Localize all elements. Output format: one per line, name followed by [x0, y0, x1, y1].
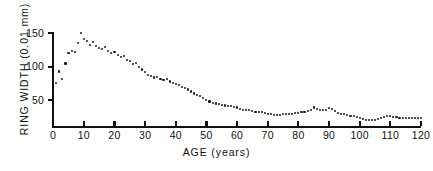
data-point: [242, 109, 244, 111]
data-point: [104, 46, 106, 48]
data-point: [77, 42, 79, 44]
data-point: [334, 110, 336, 112]
data-point: [190, 90, 192, 92]
data-point: [325, 109, 327, 111]
data-point: [389, 115, 391, 117]
data-point: [181, 86, 183, 88]
data-point: [153, 76, 155, 78]
data-point: [129, 60, 131, 62]
data-point: [169, 80, 171, 82]
data-point: [236, 106, 238, 108]
data-point: [411, 117, 413, 119]
data-point: [120, 56, 122, 58]
data-point: [322, 109, 324, 111]
data-point: [310, 109, 312, 111]
data-point: [64, 62, 66, 64]
data-point: [377, 118, 379, 120]
data-point: [245, 109, 247, 111]
data-point: [187, 88, 189, 90]
data-point: [135, 62, 137, 64]
data-point: [398, 117, 400, 119]
data-point: [402, 117, 404, 119]
data-point: [353, 115, 355, 117]
data-point: [264, 112, 266, 114]
data-point: [110, 52, 112, 54]
data-point: [405, 117, 407, 119]
data-point: [251, 110, 253, 112]
data-point: [273, 114, 275, 116]
data-point: [199, 95, 201, 97]
data-point: [162, 79, 164, 81]
data-point: [267, 113, 269, 115]
data-point: [221, 104, 223, 106]
data-point: [294, 112, 296, 114]
data-point: [261, 111, 263, 113]
data-point: [175, 83, 177, 85]
data-point: [258, 111, 260, 113]
data-point: [89, 44, 91, 46]
data-point: [67, 52, 69, 54]
data-point: [178, 84, 180, 86]
data-point: [132, 63, 134, 65]
data-point: [202, 97, 204, 99]
data-point: [365, 119, 367, 121]
data-point: [371, 119, 373, 121]
data-point: [193, 92, 195, 94]
data-point: [356, 116, 358, 118]
data-point: [98, 47, 100, 49]
data-point: [196, 94, 198, 96]
data-point: [303, 111, 305, 113]
y-axis-title: RING WIDTH (0.01 mm): [18, 0, 30, 139]
data-point: [205, 99, 207, 101]
data-point: [55, 82, 57, 84]
data-point: [61, 78, 63, 80]
data-point: [285, 113, 287, 115]
data-point: [184, 87, 186, 89]
data-point: [138, 66, 140, 68]
data-point: [331, 108, 333, 110]
data-point: [282, 113, 284, 115]
data-point: [117, 54, 119, 56]
data-point: [58, 70, 60, 72]
data-point: [374, 119, 376, 121]
data-point: [71, 50, 73, 52]
data-point: [212, 102, 214, 104]
data-point: [279, 114, 281, 116]
data-point: [95, 45, 97, 47]
data-point: [270, 113, 272, 115]
data-point: [150, 75, 152, 77]
data-point: [362, 118, 364, 120]
data-point: [386, 115, 388, 117]
data-point: [300, 111, 302, 113]
data-point: [359, 117, 361, 119]
data-point: [123, 55, 125, 57]
data-point: [230, 105, 232, 107]
data-point: [239, 108, 241, 110]
data-point: [291, 113, 293, 115]
data-point: [80, 32, 82, 34]
data-point: [380, 117, 382, 119]
data-point: [349, 115, 351, 117]
data-point: [248, 109, 250, 111]
data-point: [383, 116, 385, 118]
data-point: [147, 74, 149, 76]
data-point: [395, 116, 397, 118]
data-point: [208, 100, 210, 102]
data-point: [107, 50, 109, 52]
data-point: [166, 78, 168, 80]
data-point: [340, 113, 342, 115]
data-point: [224, 104, 226, 106]
x-axis-title: AGE (years): [0, 146, 433, 158]
data-point: [141, 68, 143, 70]
data-point: [288, 113, 290, 115]
data-point: [319, 109, 321, 111]
data-point: [92, 41, 94, 43]
data-point: [392, 116, 394, 118]
data-point: [420, 117, 422, 119]
data-point: [126, 59, 128, 61]
data-point: [343, 113, 345, 115]
data-point: [408, 117, 410, 119]
data-point: [172, 82, 174, 84]
data-point: [86, 40, 88, 42]
data-point: [113, 51, 115, 53]
